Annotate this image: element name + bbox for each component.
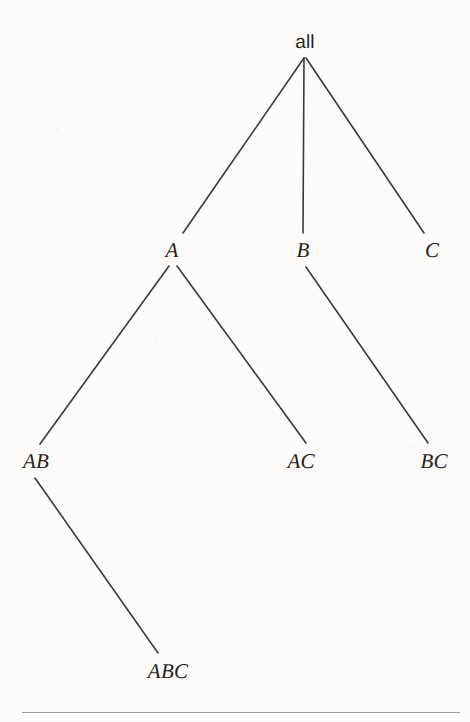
- tree-edge-b-to-bc: [306, 267, 428, 443]
- tree-node-bc: BC: [420, 451, 447, 472]
- tree-node-c: C: [425, 240, 439, 261]
- tree-node-a: A: [165, 240, 178, 261]
- horizontal-rule: [22, 712, 460, 713]
- tree-edges-canvas: [0, 0, 470, 722]
- tree-node-ac: AC: [287, 451, 314, 472]
- tree-node-all: all: [295, 33, 314, 52]
- tree-edge-a-to-ac: [177, 266, 306, 443]
- tree-node-b: B: [296, 240, 309, 261]
- tree-edge-all-to-c: [306, 58, 424, 233]
- tree-node-abc: ABC: [148, 661, 188, 682]
- edge-group: [35, 58, 428, 653]
- tree-node-ab: AB: [23, 451, 49, 472]
- tree-edge-all-to-a: [183, 58, 304, 233]
- tree-edge-ab-to-abc: [35, 478, 158, 653]
- tree-edge-a-to-ab: [40, 266, 169, 444]
- tree-edge-all-to-b: [303, 58, 304, 233]
- diagram-page: allABCABACBCABC: [0, 0, 470, 722]
